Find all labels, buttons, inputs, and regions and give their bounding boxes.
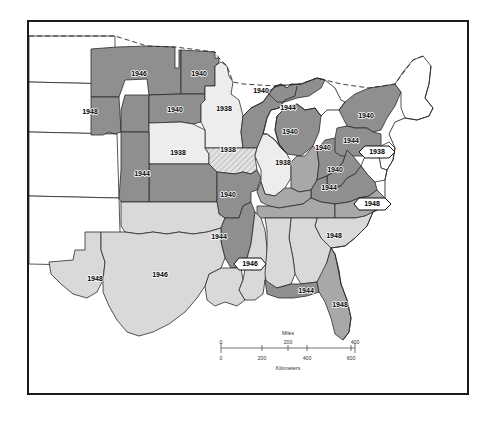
map-frame: 1946 1940 1948 1940 1938 1940 1944 1940 … xyxy=(27,20,469,395)
scale-title-miles: Miles xyxy=(282,330,295,336)
year-label-florida-panhandle: 1944 xyxy=(298,287,314,294)
year-label-virginia: 1944 xyxy=(321,184,337,191)
year-label-michigan-upper: 1944 xyxy=(280,104,296,111)
year-label-colorado: 1944 xyxy=(134,170,150,177)
year-label-illinois: 1938 xyxy=(275,159,291,166)
year-label-florida: 1948 xyxy=(332,301,348,308)
callout-label-north-carolina: 1948 xyxy=(364,200,380,207)
state-colorado xyxy=(119,132,149,202)
callout-north-carolina: 1948 xyxy=(354,198,391,210)
scale-tick-km-400-label: 400 xyxy=(303,355,312,361)
state-texas xyxy=(101,228,225,336)
year-label-arkansas: 1944 xyxy=(211,233,227,240)
year-label-minnesota: 1938 xyxy=(216,105,232,112)
state-oklahoma xyxy=(121,202,225,234)
year-label-montana: 1946 xyxy=(131,70,147,77)
state-idaho xyxy=(91,97,121,135)
year-label-nebraska: 1938 xyxy=(170,149,186,156)
map-figure: 1946 1940 1948 1940 1938 1940 1944 1940 … xyxy=(0,0,497,421)
year-label-new-york: 1940 xyxy=(358,112,374,119)
year-label-south-carolina: 1948 xyxy=(326,232,342,239)
state-kansas xyxy=(149,164,217,202)
year-label-iowa: 1938 xyxy=(220,146,236,153)
callout-label-mississippi: 1946 xyxy=(242,260,258,267)
state-wyoming xyxy=(121,95,149,132)
state-louisiana xyxy=(205,268,245,306)
year-label-pennsylvania: 1944 xyxy=(343,137,359,144)
year-label-south-dakota: 1940 xyxy=(167,106,183,113)
year-label-idaho: 1948 xyxy=(82,108,98,115)
region-group-north xyxy=(91,46,219,135)
state-new-england xyxy=(395,56,433,120)
scale-tick-km-600-label: 600 xyxy=(347,355,356,361)
year-label-north-dakota: 1940 xyxy=(191,70,207,77)
callout-new-jersey: 1938 xyxy=(359,146,395,158)
year-label-ohio: 1940 xyxy=(315,144,331,151)
year-label-missouri: 1940 xyxy=(220,191,236,198)
state-nebraska xyxy=(149,122,209,164)
state-california-nevada xyxy=(29,132,119,198)
scale-tick-km-0-label: 0 xyxy=(220,355,223,361)
callout-mississippi: 1946 xyxy=(234,258,266,270)
scale-tick-km-200-label: 200 xyxy=(258,355,267,361)
state-new-york xyxy=(339,84,401,132)
scale-tick-miles-200: 200 xyxy=(284,339,293,345)
year-label-texas: 1946 xyxy=(152,271,168,278)
callout-label-new-jersey: 1938 xyxy=(369,148,385,155)
year-label-west-virginia: 1940 xyxy=(327,166,343,173)
year-label-michigan-lower: 1940 xyxy=(282,128,298,135)
year-label-texas-west: 1948 xyxy=(87,275,103,282)
year-label-wisconsin: 1940 xyxy=(253,87,269,94)
map-canvas: 1946 1940 1948 1940 1938 1940 1944 1940 … xyxy=(29,22,471,397)
scale-title-kilometers: Kilometers xyxy=(276,365,301,371)
